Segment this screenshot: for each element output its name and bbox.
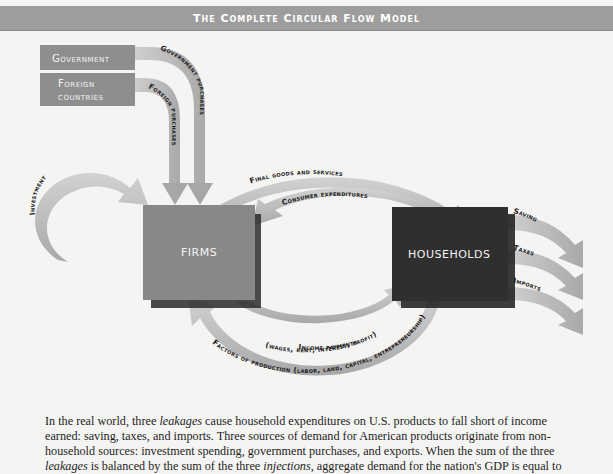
households-label: HOUSEHOLDS	[408, 248, 490, 261]
caption-injections: injections	[263, 459, 310, 473]
consumer-expenditures-label: Consumer expenditures	[281, 189, 369, 207]
svg-text:Foreign purchases: Foreign purchases	[147, 82, 179, 146]
caption-paragraph: In the real world, three leakages cause …	[45, 414, 575, 474]
government-label: Government	[52, 53, 110, 64]
government-node: Government	[40, 45, 135, 70]
caption-text-3: is balanced by the sum of the three	[88, 459, 264, 473]
caption-text-4: , aggregate demand for the nation's GDP …	[311, 459, 562, 473]
foreign-countries-node: Foreign countries	[40, 73, 135, 106]
firms-node: FIRMS	[143, 205, 261, 308]
caption-text-1: In the real world, three	[45, 414, 159, 428]
investment-arrow	[35, 173, 148, 262]
caption-leakages: leakages	[159, 414, 202, 428]
svg-text:(wages, rent, interest, profit: (wages, rent, interest, profit)	[265, 329, 379, 354]
households-node: HOUSEHOLDS	[392, 207, 515, 308]
income-detail-label: (wages, rent, interest, profit)	[265, 329, 379, 354]
caption-leakages-2: leakages	[45, 459, 88, 473]
foreign-purchases-label: Foreign purchases	[147, 82, 179, 146]
income-payments-arrow	[235, 283, 410, 323]
foreign-label-line2: countries	[58, 91, 103, 102]
foreign-label-line1: Foreign	[58, 78, 95, 89]
svg-text:Consumer expenditures: Consumer expenditures	[281, 189, 369, 207]
firms-label: FIRMS	[181, 246, 217, 259]
